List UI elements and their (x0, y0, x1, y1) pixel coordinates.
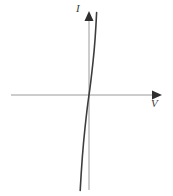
iv-plot-canvas (0, 0, 173, 196)
y-axis-label: I (76, 3, 80, 14)
iv-curve (80, 13, 96, 191)
iv-characteristic-figure: I V (0, 0, 173, 196)
x-axis-label: V (151, 98, 158, 109)
arrow-up-icon (85, 11, 94, 21)
